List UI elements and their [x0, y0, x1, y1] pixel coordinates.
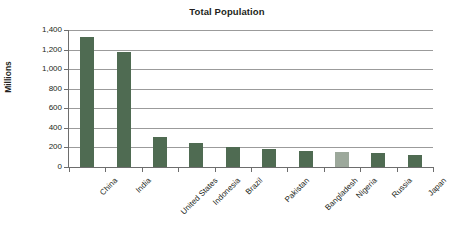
x-category-label: Russia: [391, 176, 415, 200]
x-category-label: Brazil: [244, 176, 265, 197]
x-category-label: Nigeria: [354, 176, 378, 200]
bar-chart: Total Population Millions 02004006008001…: [0, 0, 454, 239]
x-category-label: India: [134, 176, 153, 195]
x-category-label: China: [98, 176, 119, 197]
x-category-label: Pakistan: [283, 176, 311, 204]
x-axis-category-labels: ChinaIndiaUnited StatesIndonesiaBrazilPa…: [0, 0, 454, 239]
x-category-label: United States: [179, 176, 219, 216]
x-category-label: Japan: [426, 176, 448, 198]
